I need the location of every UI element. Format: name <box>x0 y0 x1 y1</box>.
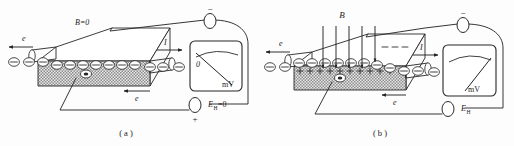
panel-b-caption: ( b ) <box>373 128 387 138</box>
panel-b: B e e I − <box>265 8 503 138</box>
panel-b-electron-label-bottom: e <box>393 98 397 107</box>
panel-a-terminal-bottom: + <box>189 98 201 125</box>
electron <box>65 61 76 70</box>
panel-a-hall-symbol: E <box>207 100 213 109</box>
panel-a-hall-voltage-label: E H =0 <box>207 100 227 111</box>
electron <box>130 61 141 70</box>
electron <box>9 58 20 67</box>
panel-b-hall-symbol: E <box>460 104 466 113</box>
electron <box>320 59 331 68</box>
electron <box>280 63 291 72</box>
panel-a-slab-top-face <box>38 28 170 61</box>
panel-b-current-label: I <box>419 43 423 52</box>
electron <box>413 67 424 76</box>
electron <box>294 59 305 68</box>
electron <box>38 58 49 67</box>
electron <box>91 61 102 70</box>
panel-b-electron-label-top: e <box>279 39 283 48</box>
electron <box>158 63 169 72</box>
panel-a-field-label: B=0 <box>75 18 89 27</box>
electron <box>78 61 89 70</box>
panel-b-hall-voltage-label: E H <box>460 104 471 115</box>
electron <box>52 61 63 70</box>
panel-a-contact-dot <box>84 72 89 75</box>
panel-a-hall-value: =0 <box>218 100 227 109</box>
panel-a-terminal-bottom-sign: + <box>192 114 197 124</box>
panel-a-electron-label-bottom: e <box>135 94 139 103</box>
electron <box>372 61 383 70</box>
electron <box>399 67 410 76</box>
panel-b-hall-subscript: H <box>467 109 471 115</box>
panel-a-meter[interactable]: 0 mV <box>190 41 242 91</box>
panel-a-current-label: I <box>163 38 167 47</box>
electron <box>333 59 344 68</box>
panel-b-meter[interactable]: mV <box>443 45 496 96</box>
panel-a-terminal-top-sign: − <box>207 4 212 14</box>
electron <box>24 58 35 67</box>
panel-b-meter-unit-label: mV <box>468 85 480 94</box>
panel-a-slab <box>38 28 170 86</box>
electron <box>307 59 318 68</box>
electron <box>429 68 440 77</box>
panel-a-terminal-top: − <box>204 4 216 29</box>
electron <box>346 59 357 68</box>
hall-effect-figure: e e I B=0 − + <box>0 0 514 146</box>
electron <box>104 61 115 70</box>
electron <box>117 61 128 70</box>
panel-a-electron-label-top: e <box>22 34 26 43</box>
panel-b-terminal-bottom <box>442 102 454 117</box>
electron <box>385 64 396 73</box>
panel-b-contact-dot <box>338 76 343 79</box>
panel-a: e e I B=0 − + <box>9 4 248 138</box>
electron <box>174 63 185 72</box>
electron <box>145 63 156 72</box>
panel-a-meter-zero-label: 0 <box>196 60 200 69</box>
electron <box>359 59 370 68</box>
panel-b-field-label: B <box>339 10 345 20</box>
electron <box>265 63 276 72</box>
diagram-canvas: e e I B=0 − + <box>0 0 514 146</box>
panel-b-terminal-top: − <box>457 8 469 33</box>
panel-a-meter-unit-label: mV <box>222 80 234 89</box>
panel-a-hall-subscript: H <box>214 105 218 111</box>
panel-b-terminal-top-sign: − <box>460 8 465 18</box>
panel-a-caption: ( a ) <box>119 128 133 138</box>
